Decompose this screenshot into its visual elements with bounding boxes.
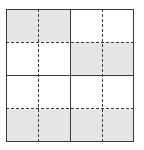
outer-border [6, 9, 134, 142]
grid-diagram [6, 9, 134, 142]
